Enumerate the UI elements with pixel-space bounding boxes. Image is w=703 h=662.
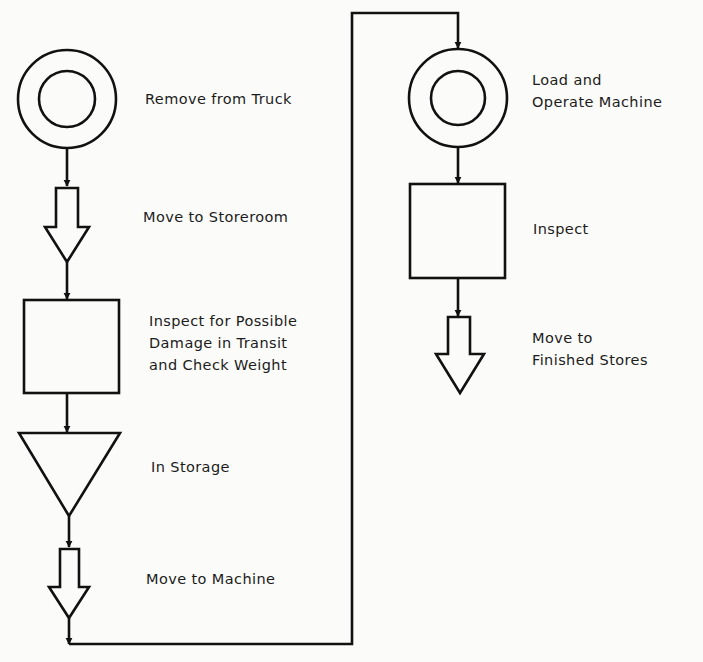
step-label-remove-from-truck: Remove from Truck: [145, 88, 292, 110]
square-icon: [24, 300, 119, 393]
square-icon: [410, 184, 505, 278]
step-label-inspect-damage-weight: Inspect for Possible Damage in Transit a…: [149, 310, 297, 376]
step-label-move-to-finished-stores: Move to Finished Stores: [532, 327, 648, 371]
step-label-move-to-storeroom: Move to Storeroom: [143, 206, 288, 228]
double-circle-icon: [18, 50, 116, 148]
step-label-load-operate-machine: Load and Operate Machine: [532, 69, 662, 113]
inverted-triangle-icon: [19, 433, 120, 516]
double-circle-icon: [409, 49, 507, 147]
step-label-in-storage: In Storage: [151, 456, 230, 478]
block-arrow-down-icon: [45, 188, 89, 262]
step-label-inspect: Inspect: [533, 218, 589, 240]
block-arrow-down-icon: [49, 549, 89, 618]
block-arrow-down-icon: [436, 317, 484, 393]
step-label-move-to-machine: Move to Machine: [146, 568, 275, 590]
